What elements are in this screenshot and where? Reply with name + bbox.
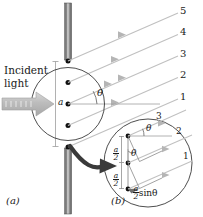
path-difference-label: a 2 sinθ	[133, 183, 158, 201]
slit-width-label-a: a	[58, 98, 63, 107]
incident-light-arrow	[2, 92, 54, 116]
barrier-lower	[65, 148, 72, 214]
ray-label-5: 5	[180, 6, 186, 17]
ray-label-1: 1	[180, 92, 186, 103]
figure-single-slit-diffraction: Incident light a θ 5 4 3 2 1 (a) 3 2 1 θ…	[0, 0, 203, 217]
half-width-dimensions-panel-b	[119, 136, 124, 189]
inset-ray-label-2: 2	[176, 127, 182, 136]
figure-vector-layer	[0, 0, 203, 217]
inset-angle-label-theta-mid: θ	[131, 149, 136, 158]
zoom-connector-arrow	[70, 146, 117, 174]
incident-light-line1: Incident	[4, 64, 48, 76]
ray-arrowheads-panel-a	[104, 31, 126, 106]
incident-light-label: Incident light	[4, 64, 48, 90]
ray-label-3: 3	[180, 49, 186, 60]
subfigure-caption-a: (a)	[6, 196, 20, 207]
inset-ray-label-1: 1	[183, 152, 189, 161]
inset-half-width-label-upper: a 2	[113, 144, 119, 162]
ray-label-2: 2	[180, 70, 186, 81]
inset-ray-label-3: 3	[156, 112, 162, 121]
inset-angle-label-theta-top: θ	[146, 124, 151, 133]
ray-label-4: 4	[180, 27, 186, 38]
half-width-fraction-lower: a 2	[113, 172, 119, 188]
path-difference-sin-term: sinθ	[139, 188, 158, 198]
wavefront-perpendiculars-panel-b	[128, 136, 162, 189]
inset-half-width-label-lower: a 2	[113, 170, 119, 188]
incident-light-line2: light	[4, 77, 28, 89]
angle-label-theta-panel-a: θ	[97, 88, 103, 99]
subfigure-caption-b: (b)	[111, 196, 125, 207]
half-width-fraction-upper: a 2	[113, 146, 119, 162]
barrier-upper	[65, 3, 72, 60]
